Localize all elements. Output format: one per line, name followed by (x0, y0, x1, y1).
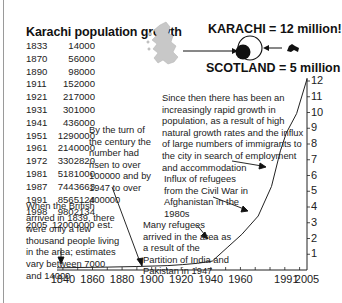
scotland-size-circle (236, 45, 251, 60)
x-tick-label: 1940 (199, 273, 223, 285)
annotation-partition: Many refugees arrived in the area as a r… (143, 219, 233, 277)
annotation-turn-of-century: By the turn of the century the number ha… (89, 124, 159, 205)
y-tick-label: 1 (311, 247, 317, 259)
x-tick-label: 1840 (51, 273, 75, 285)
y-tick-label: 7 (311, 153, 317, 165)
annotation-afghanistan: Influx of refugees from the Civil War in… (164, 173, 254, 219)
scotland-population-label: SCOTLAND = 5 million (206, 61, 340, 75)
y-tick-label: 3 (311, 216, 317, 228)
y-tick-label: 11 (311, 90, 322, 102)
y-tick-label: 10 (311, 106, 323, 118)
y-tick-label: 5 (311, 184, 317, 196)
y-tick-label: 12 (311, 74, 323, 86)
scotland-map-icon (147, 22, 178, 64)
arrow-karachi-to-circle (263, 45, 282, 51)
x-tick-label: 1900 (139, 273, 163, 285)
annotation-since-then: Since then there has been an increasingl… (162, 92, 312, 173)
x-tick-label: 1960 (228, 273, 252, 285)
y-tick-label: 2 (311, 232, 317, 244)
annotation-british: When the British arrived in 1839, there … (26, 200, 122, 281)
x-tick-label: 2005 (295, 273, 319, 285)
x-tick-label: 1860 (80, 273, 104, 285)
x-tick-label: 1920 (169, 273, 193, 285)
y-tick-label: 6 (311, 169, 317, 181)
x-tick-label: 1880 (110, 273, 134, 285)
y-tick-label: 4 (311, 200, 317, 212)
arrow-scotland-to-circle (183, 48, 238, 54)
karachi-shape-icon (287, 44, 299, 52)
y-tick-label: 8 (311, 137, 317, 149)
y-tick-label: 9 (311, 121, 317, 133)
karachi-population-label: KARACHI = 12 million! (208, 22, 342, 36)
